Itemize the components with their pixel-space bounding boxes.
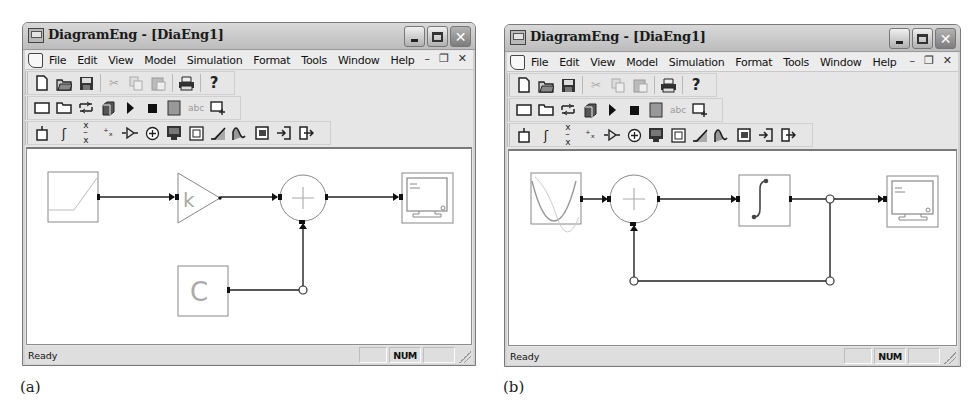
constant-block[interactable]: C — [178, 266, 230, 316]
title-bar[interactable]: DiagramEng - [DiaEng1] ✕ — [23, 23, 475, 50]
subsystem-block-icon[interactable] — [736, 127, 752, 143]
numerical-solver-icon[interactable] — [166, 100, 182, 116]
print-icon[interactable] — [660, 77, 676, 93]
menu-model[interactable]: Model — [626, 56, 658, 69]
auto-fit-icon[interactable] — [78, 100, 94, 116]
build-subsystem-icon[interactable] — [100, 100, 116, 116]
help-about-icon[interactable]: ? — [688, 77, 704, 93]
output-block-icon[interactable] — [648, 127, 664, 143]
signal-generator-block[interactable] — [531, 173, 583, 232]
open-folder-icon[interactable] — [538, 77, 554, 93]
linear-function-block[interactable] — [48, 172, 100, 222]
divide-block-icon[interactable]: x–x — [560, 127, 576, 143]
document-icon[interactable] — [510, 55, 525, 70]
cut-icon[interactable]: ✂ — [588, 77, 604, 93]
stop-simulation-icon[interactable] — [626, 102, 642, 118]
menu-file[interactable]: File — [531, 56, 548, 69]
menu-edit[interactable]: Edit — [559, 56, 579, 69]
app-icon[interactable] — [28, 28, 44, 43]
add-multiple-blocks-icon[interactable] — [210, 100, 226, 116]
minimize-button[interactable] — [889, 28, 910, 49]
save-icon[interactable] — [560, 77, 576, 93]
mdi-minimize-button[interactable]: – — [424, 52, 430, 65]
sum-block-icon[interactable] — [144, 125, 160, 141]
branch-point[interactable] — [826, 195, 834, 203]
menu-tools[interactable]: Tools — [301, 54, 327, 67]
copy-icon[interactable] — [128, 75, 144, 91]
diagram-canvas[interactable] — [508, 149, 957, 346]
menu-window[interactable]: Window — [338, 54, 380, 67]
menu-format[interactable]: Format — [253, 54, 290, 67]
print-icon[interactable] — [178, 75, 194, 91]
bend-point[interactable] — [826, 277, 834, 285]
output-display-block[interactable] — [883, 176, 938, 227]
menu-edit[interactable]: Edit — [77, 54, 97, 67]
maximize-button[interactable] — [912, 28, 933, 49]
copy-icon[interactable] — [610, 77, 626, 93]
menu-model[interactable]: Model — [144, 54, 176, 67]
document-icon[interactable] — [28, 53, 43, 68]
sum-block-icon[interactable] — [626, 127, 642, 143]
minimize-button[interactable] — [404, 26, 425, 47]
show-annotation-icon[interactable]: abc — [670, 102, 686, 118]
help-about-icon[interactable]: ? — [206, 75, 222, 91]
sum-block[interactable] — [278, 175, 328, 224]
sum-block[interactable] — [607, 175, 660, 226]
product-block-icon[interactable]: ⁺ₓ — [100, 125, 116, 141]
integrator-block-icon[interactable]: ʃ — [538, 127, 554, 143]
folder-outline-icon[interactable] — [56, 100, 72, 116]
menu-simulation[interactable]: Simulation — [187, 54, 243, 67]
gain-block[interactable]: k — [175, 173, 222, 223]
integrator-block[interactable] — [736, 175, 792, 226]
divide-block-icon[interactable]: x–x — [78, 125, 94, 141]
resize-grip[interactable] — [459, 351, 471, 363]
start-simulation-icon[interactable] — [604, 102, 620, 118]
constant-c-block-icon[interactable] — [188, 125, 204, 141]
gain-block-icon[interactable] — [604, 127, 620, 143]
stop-simulation-icon[interactable] — [144, 100, 160, 116]
save-icon[interactable] — [78, 75, 94, 91]
linear-function-block-icon[interactable] — [210, 125, 226, 141]
mdi-restore-button[interactable]: ❐ — [439, 52, 449, 65]
output-block-icon[interactable] — [166, 125, 182, 141]
constant-c-block-icon[interactable] — [670, 127, 686, 143]
menu-tools[interactable]: Tools — [783, 56, 809, 69]
signal-generator-block-icon[interactable] — [714, 127, 730, 143]
folder-outline-icon[interactable] — [538, 102, 554, 118]
title-bar[interactable]: DiagramEng - [DiaEng1] ✕ — [505, 25, 960, 52]
diagram-canvas[interactable]: k C — [26, 147, 472, 345]
subsystem-in-block-icon[interactable] — [276, 125, 292, 141]
menu-help[interactable]: Help — [873, 56, 897, 69]
subsystem-block-icon[interactable] — [254, 125, 270, 141]
subsystem-out-block-icon[interactable] — [298, 125, 314, 141]
add-multiple-blocks-icon[interactable] — [692, 102, 708, 118]
bend-point[interactable] — [630, 277, 638, 285]
close-button[interactable]: ✕ — [450, 26, 471, 47]
mdi-restore-button[interactable]: ❐ — [924, 54, 934, 67]
gain-block-icon[interactable] — [122, 125, 138, 141]
close-button[interactable]: ✕ — [935, 28, 956, 49]
numerical-solver-icon[interactable] — [648, 102, 664, 118]
menu-file[interactable]: File — [49, 54, 66, 67]
menu-window[interactable]: Window — [820, 56, 862, 69]
paste-icon[interactable] — [150, 75, 166, 91]
mdi-close-button[interactable]: ✕ — [458, 52, 467, 65]
branch-point[interactable] — [299, 286, 307, 294]
select-all-icon[interactable] — [34, 100, 50, 116]
show-annotation-icon[interactable]: abc — [188, 100, 204, 116]
subsystem-in-block-icon[interactable] — [758, 127, 774, 143]
start-simulation-icon[interactable] — [122, 100, 138, 116]
menu-format[interactable]: Format — [735, 56, 772, 69]
signal-generator-block-icon[interactable] — [232, 125, 248, 141]
select-all-icon[interactable] — [516, 102, 532, 118]
paste-icon[interactable] — [632, 77, 648, 93]
build-subsystem-icon[interactable] — [582, 102, 598, 118]
mdi-minimize-button[interactable]: – — [909, 54, 915, 67]
menu-help[interactable]: Help — [391, 54, 415, 67]
new-file-icon[interactable] — [516, 77, 532, 93]
menu-view[interactable]: View — [590, 56, 615, 69]
cut-icon[interactable]: ✂ — [106, 75, 122, 91]
menu-view[interactable]: View — [108, 54, 133, 67]
product-block-icon[interactable]: ⁺ₓ — [582, 127, 598, 143]
subsystem-out-block-icon[interactable] — [780, 127, 796, 143]
